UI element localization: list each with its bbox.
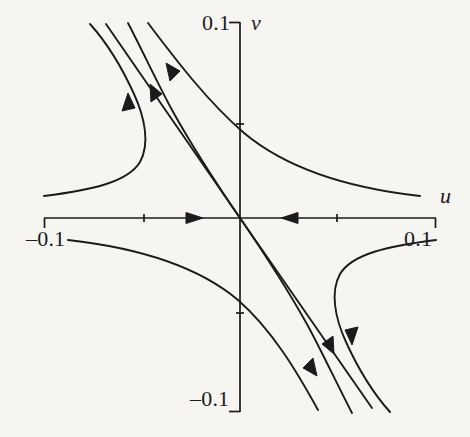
trajectory-hyperbola-lower-left xyxy=(68,240,318,410)
arrowhead-upper-left-outer xyxy=(122,93,135,111)
v-axis-max-label: 0.1 xyxy=(202,12,230,34)
arrowhead-separatrix-lower xyxy=(303,358,317,376)
arrowhead-separatrix-upper xyxy=(166,63,180,81)
phase-portrait-figure: 0.1 v –0.1 0.1 u –0.1 xyxy=(0,0,470,437)
phase-portrait-canvas xyxy=(0,0,470,437)
u-axis-min-label: –0.1 xyxy=(26,228,65,250)
v-axis-name-label: v xyxy=(251,12,261,34)
arrowhead-u-axis-right xyxy=(281,213,298,224)
trajectory-hyperbola-lower-right-outer xyxy=(335,240,436,412)
u-axis-name-label: u xyxy=(440,185,451,207)
u-axis-max-label: 0.1 xyxy=(404,228,432,250)
trajectory-hyperbola-upper-left-inner xyxy=(128,23,240,218)
arrowhead-u-axis-left xyxy=(186,213,203,224)
v-axis-min-label: –0.1 xyxy=(190,388,229,410)
trajectory-hyperbola-upper-right xyxy=(148,23,420,196)
trajectory-hyperbola-upper-left-outer xyxy=(44,24,145,196)
trajectory-hyperbola-lower-right-inner xyxy=(240,218,352,413)
